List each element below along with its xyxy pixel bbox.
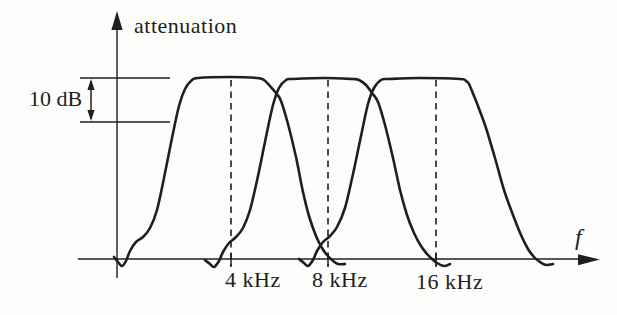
tick-label-4khz: 4 kHz [225,268,281,292]
filter-16khz-curve [299,78,553,266]
figure-canvas [0,0,617,315]
tick-label-16khz: 16 kHz [416,270,483,294]
filter-curves-group [114,77,553,267]
y-axis-arrow-icon [111,11,122,30]
db-span-label: 10 dB [29,87,82,111]
db-span-arrow-up-icon [87,79,94,90]
reference-lines-group [80,78,170,122]
db-span-arrow-group [87,79,94,121]
filter-bank-figure: attenuation 10 dB f 4 kHz 8 kHz 16 kHz [0,0,617,315]
db-span-arrow-down-icon [87,110,94,121]
filter-4khz-curve [114,77,345,266]
tick-label-8khz: 8 kHz [312,268,368,292]
y-axis-label: attenuation [134,14,237,38]
center-frequency-lines-group [231,80,436,267]
x-axis-arrow-icon [578,254,600,265]
x-axis-label: f [575,225,582,249]
